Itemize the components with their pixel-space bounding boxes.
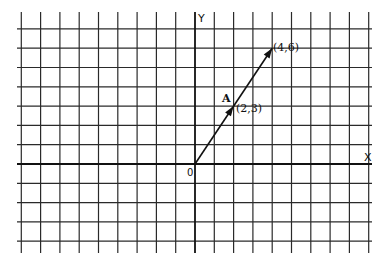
- arrowhead-mid-icon: [225, 106, 233, 116]
- arrowhead-end-icon: [264, 48, 272, 58]
- vector-a: A (2,3) (4,6): [195, 41, 299, 164]
- origin-label: 0: [187, 167, 193, 178]
- vector-name-label: A: [221, 92, 231, 105]
- midpoint-label: (2,3): [236, 102, 262, 115]
- y-axis-label: Y: [197, 12, 205, 25]
- coordinate-diagram: X Y 0 A (2,3) (4,6): [0, 0, 391, 263]
- endpoint-label: (4,6): [273, 41, 299, 54]
- x-axis-label: X: [364, 151, 372, 164]
